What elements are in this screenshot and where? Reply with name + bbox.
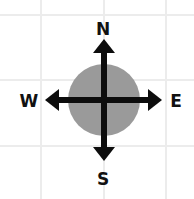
compass-arrows <box>45 39 162 161</box>
label-west: W <box>20 91 39 111</box>
compass-svg: N S W E <box>0 0 194 199</box>
east-arrow-icon <box>148 89 162 111</box>
label-north: N <box>96 19 110 39</box>
label-south: S <box>97 169 109 189</box>
west-arrow-icon <box>45 89 59 111</box>
compass-diagram: N S W E <box>0 0 194 199</box>
north-arrow-icon <box>93 39 115 53</box>
south-arrow-icon <box>93 147 115 161</box>
label-east: E <box>170 91 182 111</box>
